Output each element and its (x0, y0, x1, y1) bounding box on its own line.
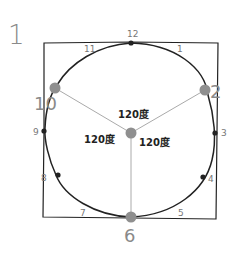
hour-label-4: 4 (208, 174, 214, 184)
angle-labels: 120度120度120度 (84, 108, 171, 148)
hour-mark-4 (200, 174, 205, 179)
key-label-10: 10 (34, 93, 57, 114)
hour-mark-12 (128, 40, 133, 45)
hour-label-11: 11 (84, 44, 95, 54)
hour-label-3: 3 (221, 128, 227, 138)
key-point-10 (50, 83, 61, 94)
clock-circle-diagram: 1 1026 11112345789 120度120度120度 (0, 0, 238, 256)
hour-label-7: 7 (80, 208, 86, 218)
spokes (55, 88, 205, 217)
hour-mark-3 (212, 130, 217, 135)
key-points (50, 83, 211, 223)
center-point (126, 128, 137, 139)
hour-mark-9 (41, 128, 46, 133)
hour-labels: 11112345789 (33, 29, 227, 218)
key-point-2 (200, 85, 211, 96)
hour-label-12: 12 (127, 29, 138, 39)
figure-number: 1 (8, 20, 25, 50)
key-point-6 (126, 212, 137, 223)
angle-label-2: 120度 (139, 136, 171, 148)
hour-mark-8 (55, 172, 60, 177)
key-label-2: 2 (210, 81, 221, 102)
hour-label-8: 8 (41, 173, 47, 183)
hour-label-1: 1 (177, 44, 183, 54)
key-label-6: 6 (124, 225, 135, 246)
hour-label-5: 5 (178, 208, 184, 218)
angle-label-0: 120度 (118, 108, 150, 120)
angle-label-1: 120度 (84, 133, 116, 145)
hour-label-9: 9 (33, 127, 39, 137)
